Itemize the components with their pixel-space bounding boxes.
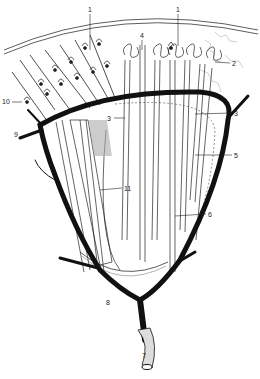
label-3a: 3: [107, 115, 111, 122]
inner-boundary: [115, 102, 215, 250]
label-2: 2: [232, 60, 236, 67]
convoluted-tubules: [123, 42, 221, 60]
label-10: 10: [2, 98, 10, 105]
renal-lobe-diagram: 1 1 2 3 3 4 5 6 7 8 9 10 11: [0, 0, 260, 379]
label-1a: 1: [88, 6, 92, 13]
collecting-duct: [70, 120, 112, 265]
label-11: 11: [124, 185, 131, 192]
label-4: 4: [140, 32, 144, 39]
label-5: 5: [234, 152, 238, 159]
label-7: 7: [142, 352, 146, 359]
capsule: [4, 19, 258, 54]
renal-vessel: [138, 328, 155, 370]
label-6: 6: [208, 211, 212, 218]
labels: 1 1 2 3 3 4 5 6 7 8 9 10 11: [2, 6, 238, 359]
label-9: 9: [14, 131, 18, 138]
glomeruli-left: [12, 35, 115, 122]
label-1b: 1: [176, 6, 180, 13]
leader-lines: [12, 14, 232, 216]
label-3b: 3: [234, 110, 238, 117]
label-8: 8: [106, 299, 110, 306]
vessel-branches: [20, 96, 248, 340]
